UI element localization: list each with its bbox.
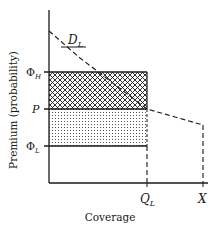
crosshatched-region: [49, 72, 147, 109]
q-l-label: QL: [140, 192, 155, 208]
p-label: P: [31, 103, 40, 116]
dotted-region: [49, 109, 147, 146]
coverage-premium-diagram: DL ΦH P ΦL QL X Coverage Premium (probab…: [0, 0, 218, 229]
phi-l-label: ΦL: [26, 140, 40, 155]
dl-label: DL: [67, 33, 83, 49]
x-axis-title: Coverage: [85, 211, 136, 223]
x-label: X: [197, 192, 207, 206]
y-axis-title: Premium (probability): [7, 51, 19, 169]
phi-h-label: ΦH: [26, 66, 42, 81]
